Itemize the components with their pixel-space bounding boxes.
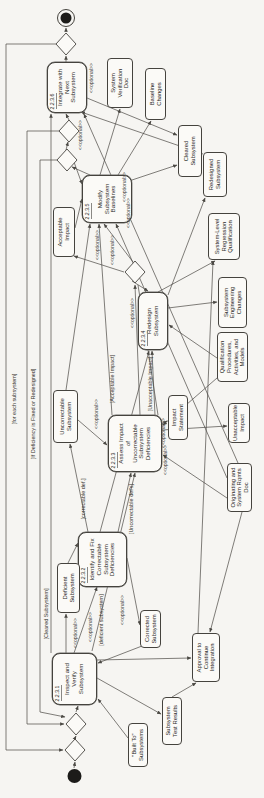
activity-2-2-3-2: 2.2.3.2Identify and Fix Correctable Subs…: [78, 532, 127, 587]
flow-edge: [163, 455, 227, 498]
activity-label: Assess Impact of Uncorrectable Subsystem…: [118, 416, 153, 471]
guard-label: [Unacceptable Impact]: [147, 357, 153, 412]
object-test-results: Subsystem Test Results: [162, 697, 182, 745]
object-label: Uncorrectable Subsystem: [59, 391, 72, 442]
flow-edge: [75, 199, 82, 228]
flow-edge: [75, 736, 76, 738]
activity-2-2-3-4: 2.2.3.4Redesign Subsystem: [138, 292, 168, 350]
object-label: Corrected Subsystem: [144, 611, 157, 647]
object-label: Acceptable Impact: [57, 208, 70, 256]
merge-modify-2-diamond: [59, 120, 79, 142]
activity-label: Identify and Fix Correctable Subsystem D…: [89, 533, 117, 586]
final-node: [61, 13, 72, 24]
object-label: System-Level Regression Qualification: [214, 214, 234, 259]
object-acceptable: Acceptable Impact: [53, 207, 75, 257]
object-label: Originating and System Rqmts Doc: [230, 464, 250, 511]
decision-final-diamond: [56, 33, 76, 55]
flow-edge: [74, 762, 75, 768]
flow-edge: [158, 261, 215, 292]
flow-edge: [98, 646, 142, 663]
object-qual-procedures: Qualification Procedures, Activities, an…: [217, 332, 248, 382]
flow-edge: [66, 114, 69, 120]
flow-edge: [40, 712, 65, 717]
object-cleared: Cleared Subsystem: [178, 125, 202, 177]
optional-stereotype: <<optional>>: [72, 618, 78, 648]
guard-label: [Acceptable Impact]: [109, 355, 115, 403]
object-label: Baseline Changes: [149, 69, 162, 119]
object-redesigned: Redesigned Subsystem: [203, 152, 227, 197]
optional-stereotype: <<optional>>: [162, 445, 168, 475]
guard-label: [Uncorrectable def's]: [128, 484, 134, 534]
object-orig-rqmts-doc: Originating and System Rqmts Doc: [227, 463, 252, 512]
optional-stereotype: <<optional>>: [119, 595, 125, 625]
flow-edge: [132, 165, 177, 180]
object-deficient: Deficient Subsystem: [57, 563, 80, 613]
flow-edge: [74, 162, 82, 184]
object-label: Subsystem Test Results: [165, 698, 178, 744]
activity-number: 2.2.3.4: [140, 330, 148, 347]
activity-number: 2.2.3.3: [110, 452, 118, 469]
object-sys-verif-doc: System Verification Doc: [107, 58, 133, 108]
optional-stereotype: <<optional>>: [88, 63, 94, 93]
object-built-to: "Built To" Subsystems: [128, 723, 148, 767]
activity-2-2-3-6: 2.2.3.6Integrate with Next Subsystem: [47, 62, 87, 113]
object-label: Deficient Subsystem: [62, 564, 75, 612]
object-unacceptable: Unacceptable Impact: [228, 403, 250, 443]
activity-label: Inspect and Verify Subsystem: [64, 654, 85, 704]
object-baseline-changes: Baseline Changes: [145, 68, 166, 120]
object-sys-regression: System-Level Regression Qualification: [208, 213, 240, 260]
flow-edge: [76, 706, 78, 712]
object-label: Subsystem Engineering Changes: [223, 278, 243, 327]
flow-edge: [168, 302, 217, 308]
flow-edge: [172, 683, 196, 697]
flow-edge: [118, 121, 151, 175]
object-label: Redesigned Subsystem: [208, 153, 221, 196]
flow-edge: [198, 261, 213, 633]
flow-edge: [127, 558, 140, 625]
activity-diagram-screenshot: 2.2.3.1Inspect and Verify Subsystem2.2.3…: [0, 0, 264, 798]
optional-stereotype: <<optional>>: [125, 198, 131, 228]
guard-label: [for each subsystem]: [11, 374, 17, 425]
object-impact-statement: Impact Statement: [168, 395, 188, 440]
flow-edge: [100, 109, 120, 175]
object-uncorrectable-sub: Uncorrectable Subsystem: [53, 390, 78, 443]
object-label: "Built To" Subsystems: [131, 724, 144, 766]
activity-number: 2.2.3.2: [80, 567, 88, 584]
flow-edge: [168, 198, 205, 295]
activity-label: Modify Subsystem Baselines: [97, 176, 118, 222]
flow-edge: [210, 512, 242, 632]
uml-activity-diagram: 2.2.3.1Inspect and Verify Subsystem2.2.3…: [0, 0, 264, 798]
object-approval: Approval to Continue Integration: [192, 633, 220, 682]
activity-label: Integrate with Next Subsystem: [57, 63, 78, 112]
optional-stereotype: <<optional>>: [160, 418, 166, 448]
optional-stereotype: <<optional>>: [87, 612, 93, 642]
object-label: System Verification Doc: [110, 59, 130, 107]
object-label: Unacceptable Impact: [232, 404, 245, 442]
activity-number: 2.2.3.5: [84, 203, 92, 220]
optional-stereotype: <<optional>>: [93, 399, 99, 429]
merge-start-inner-diamond: [66, 713, 86, 735]
object-subsys-eng-changes: Subsystem Engineering Changes: [218, 277, 247, 328]
object-label: Impact Statement: [171, 396, 184, 439]
object-corrected: Corrected Subsystem: [140, 610, 161, 648]
optional-stereotype: <<optional>>: [94, 230, 100, 260]
activity-number: 2.2.3.6: [49, 93, 57, 110]
activity-2-2-3-3: 2.2.3.3Assess Impact of Uncorrectable Su…: [108, 415, 162, 472]
activity-number: 2.2.3.1: [54, 685, 62, 702]
guard-label: [Cleared Subsystem]: [43, 588, 49, 639]
object-label: Qualification Procedures, Activities, an…: [219, 333, 245, 381]
object-label: Cleared Subsystem: [183, 126, 196, 176]
flow-edge: [72, 167, 90, 175]
flow-edge: [98, 699, 128, 738]
guard-label: [If Deficiency is Fixed or Redesigned]: [30, 369, 36, 460]
guard-label: [correctable def.]: [80, 479, 86, 520]
optional-stereotype: <<optional>>: [129, 298, 135, 328]
initial-node: [68, 769, 82, 783]
flow-edge: [97, 678, 161, 714]
activity-label: Redesign Subsystem: [146, 293, 160, 349]
activity-2-2-3-1: 2.2.3.1Inspect and Verify Subsystem: [52, 653, 97, 705]
flow-edge: [68, 543, 78, 563]
edge-layer: [0, 0, 264, 798]
optional-stereotype: <<optional>>: [77, 120, 83, 150]
optional-stereotype: <<optional>>: [109, 235, 115, 265]
